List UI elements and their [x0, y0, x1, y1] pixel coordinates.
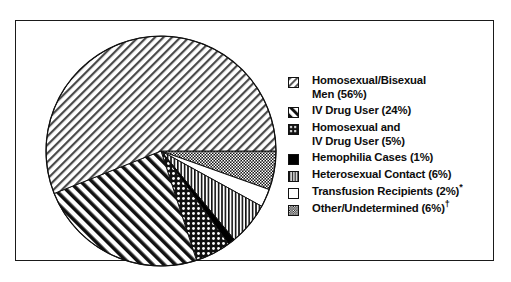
pie-chart — [41, 31, 281, 271]
swatch-other-undetermined-icon — [288, 205, 299, 216]
legend-label-iv-drug-user: IV Drug User (24%) — [312, 104, 411, 118]
legend-item-homosexual-and-iv-drug-user: Homosexual and IV Drug User (5%) — [288, 121, 493, 148]
legend-swatch-cell — [288, 74, 312, 88]
pie-chart-svg — [41, 31, 281, 271]
swatch-hemophilia-cases-icon — [288, 154, 299, 165]
legend-item-iv-drug-user: IV Drug User (24%) — [288, 104, 493, 118]
legend-label-other-undetermined-text: Other/Undetermined (6%) — [312, 202, 445, 214]
legend-swatch-cell — [288, 121, 312, 135]
legend-item-homosexual-bisexual-men: Homosexual/Bisexual Men (56%) — [288, 74, 493, 101]
legend-label-homosexual-bisexual-men: Homosexual/Bisexual Men (56%) — [312, 74, 426, 101]
legend-label-heterosexual-contact: Heterosexual Contact (6%) — [312, 168, 451, 182]
swatch-iv-drug-user-icon — [288, 107, 299, 118]
figure-container: Homosexual/Bisexual Men (56%) IV Drug Us… — [0, 0, 511, 282]
swatch-heterosexual-contact-icon — [288, 171, 299, 182]
legend-swatch-cell — [288, 104, 312, 118]
swatch-homosexual-and-iv-drug-user-icon — [288, 124, 299, 135]
legend-label-hemophilia-cases: Hemophilia Cases (1%) — [312, 151, 433, 165]
legend-item-other-undetermined: Other/Undetermined (6%)† — [288, 202, 493, 216]
swatch-transfusion-recipients-icon — [288, 188, 299, 199]
chart-frame-border: Homosexual/Bisexual Men (56%) IV Drug Us… — [15, 20, 494, 261]
footnote-marker-dagger: † — [445, 200, 450, 210]
footnote-marker-asterisk: * — [459, 183, 462, 193]
legend: Homosexual/Bisexual Men (56%) IV Drug Us… — [288, 74, 493, 216]
legend-label-transfusion-recipients: Transfusion Recipients (2%)* — [312, 185, 463, 199]
legend-item-transfusion-recipients: Transfusion Recipients (2%)* — [288, 185, 493, 199]
legend-item-heterosexual-contact: Heterosexual Contact (6%) — [288, 168, 493, 182]
legend-swatch-cell — [288, 185, 312, 199]
swatch-homosexual-bisexual-men-icon — [288, 77, 299, 88]
legend-label-other-undetermined: Other/Undetermined (6%)† — [312, 202, 450, 216]
legend-swatch-cell — [288, 151, 312, 165]
legend-label-homosexual-and-iv-drug-user: Homosexual and IV Drug User (5%) — [312, 121, 405, 148]
legend-swatch-cell — [288, 168, 312, 182]
legend-label-transfusion-recipients-text: Transfusion Recipients (2%) — [312, 185, 459, 197]
legend-item-hemophilia-cases: Hemophilia Cases (1%) — [288, 151, 493, 165]
legend-swatch-cell — [288, 202, 312, 216]
